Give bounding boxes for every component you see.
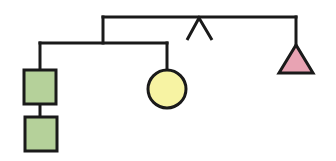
square-node-top	[24, 70, 56, 104]
square-node-bottom	[25, 117, 57, 151]
triangle-node	[279, 45, 313, 73]
diagram-canvas	[0, 0, 336, 161]
circle-node	[148, 70, 186, 108]
caret-icon	[187, 18, 212, 40]
tree-diagram	[0, 0, 336, 161]
